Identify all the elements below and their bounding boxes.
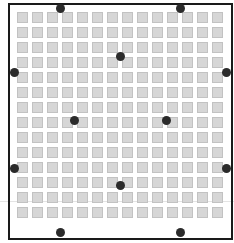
grid-cell xyxy=(137,42,148,53)
grid-cell xyxy=(137,102,148,113)
grid-cell xyxy=(167,132,178,143)
grid-cell xyxy=(212,42,223,53)
grid-cell xyxy=(182,177,193,188)
grid-cell xyxy=(212,207,223,218)
marker-dot xyxy=(56,4,65,13)
grid-cell xyxy=(17,147,28,158)
grid-cell xyxy=(47,207,58,218)
grid-cell xyxy=(137,132,148,143)
marker-dot xyxy=(162,116,171,125)
grid-cell xyxy=(137,162,148,173)
grid-cell xyxy=(32,132,43,143)
grid-cell xyxy=(17,102,28,113)
grid-cell xyxy=(152,42,163,53)
grid-cell xyxy=(62,87,73,98)
grid-cell xyxy=(32,147,43,158)
grid-cell xyxy=(167,102,178,113)
grid-cell xyxy=(182,117,193,128)
grid-cell xyxy=(122,132,133,143)
grid-cell xyxy=(92,132,103,143)
grid-cell xyxy=(17,132,28,143)
grid-cell xyxy=(47,132,58,143)
grid-cell xyxy=(47,42,58,53)
grid-cell xyxy=(77,102,88,113)
grid-cell xyxy=(152,162,163,173)
grid-cell xyxy=(32,102,43,113)
grid-cell xyxy=(107,192,118,203)
grid-cell xyxy=(47,87,58,98)
grid-cell xyxy=(122,27,133,38)
grid-cell xyxy=(47,147,58,158)
grid-cell xyxy=(92,192,103,203)
grid-cell xyxy=(122,12,133,23)
grid-cell xyxy=(62,207,73,218)
grid-cell xyxy=(17,72,28,83)
grid-cell xyxy=(107,12,118,23)
grid-cell xyxy=(137,72,148,83)
grid-cell xyxy=(212,132,223,143)
grid-cell xyxy=(197,72,208,83)
marker-dot xyxy=(10,164,19,173)
grid-cell xyxy=(167,57,178,68)
grid-cell xyxy=(107,27,118,38)
grid-cell xyxy=(212,117,223,128)
grid-cell xyxy=(17,87,28,98)
grid-cell xyxy=(32,27,43,38)
grid-cell xyxy=(197,177,208,188)
grid-cell xyxy=(62,12,73,23)
grid-cell xyxy=(107,147,118,158)
grid-cell xyxy=(122,117,133,128)
grid-cell xyxy=(122,207,133,218)
marker-dot xyxy=(222,68,231,77)
grid-cell xyxy=(107,207,118,218)
grid-cell xyxy=(167,147,178,158)
marker-dot xyxy=(56,228,65,237)
grid-cell xyxy=(182,132,193,143)
grid-cell xyxy=(77,132,88,143)
grid-cell xyxy=(167,87,178,98)
grid-cell xyxy=(47,57,58,68)
grid-cell xyxy=(197,12,208,23)
grid-cell xyxy=(212,57,223,68)
grid-cell xyxy=(32,207,43,218)
grid-cell xyxy=(212,177,223,188)
grid-cell xyxy=(47,192,58,203)
grid-cell xyxy=(62,132,73,143)
grid-cell xyxy=(17,12,28,23)
grid-cell xyxy=(32,72,43,83)
grid-cell xyxy=(137,87,148,98)
marker-dot xyxy=(222,164,231,173)
marker-dot xyxy=(176,228,185,237)
grid-cell xyxy=(32,117,43,128)
grid-cell xyxy=(122,72,133,83)
grid-cell xyxy=(32,12,43,23)
grid-cell xyxy=(167,72,178,83)
grid-cell xyxy=(92,72,103,83)
grid-cell xyxy=(182,192,193,203)
grid-cell xyxy=(77,162,88,173)
grid-cell xyxy=(47,177,58,188)
grid-cell xyxy=(152,102,163,113)
grid-cell xyxy=(17,42,28,53)
grid-cell xyxy=(152,57,163,68)
grid-cell xyxy=(17,117,28,128)
grid-cell xyxy=(182,147,193,158)
grid-cell xyxy=(17,177,28,188)
grid-cell xyxy=(167,12,178,23)
grid-cell xyxy=(77,177,88,188)
grid-cell xyxy=(152,27,163,38)
grid-cell xyxy=(77,117,88,128)
grid-cell xyxy=(197,192,208,203)
grid-cell xyxy=(182,72,193,83)
grid-cell xyxy=(107,87,118,98)
grid-cell xyxy=(197,162,208,173)
grid-cell xyxy=(137,207,148,218)
grid-cell xyxy=(212,147,223,158)
grid-cell xyxy=(32,57,43,68)
grid-cell xyxy=(32,42,43,53)
grid-cell xyxy=(62,57,73,68)
grid-cell xyxy=(197,27,208,38)
grid-cell xyxy=(92,57,103,68)
grid-cell xyxy=(32,192,43,203)
grid-cell xyxy=(212,12,223,23)
